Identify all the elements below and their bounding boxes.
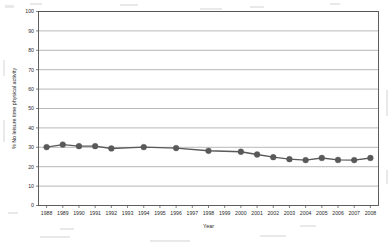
x-axis-tick-label: 2001 [251,210,263,216]
x-axis-tick-label: 1997 [187,210,199,216]
x-axis-tick-label: 1991 [89,210,101,216]
x-axis-tick-label: 1993 [122,210,134,216]
data-point-marker[interactable] [141,144,147,150]
x-axis-tick-label: 2006 [332,210,344,216]
x-axis-tick-label: 1994 [138,210,150,216]
y-axis-tick-label: 60 [28,86,34,92]
x-axis-tick-label: 2007 [348,210,360,216]
line-chart: 0102030405060708090100198819891990199119… [0,0,392,245]
x-axis-tick-label: 2002 [267,210,279,216]
data-point-marker[interactable] [270,154,276,160]
x-axis-tick-label: 1995 [154,210,166,216]
data-point-marker[interactable] [238,149,244,155]
y-axis-tick-label: 30 [28,144,34,150]
data-point-marker[interactable] [319,155,325,161]
x-axis-tick-label: 1992 [106,210,118,216]
data-point-marker[interactable] [173,145,179,151]
data-point-marker[interactable] [76,143,82,149]
y-axis-tick-label: 20 [28,164,34,170]
data-point-marker[interactable] [303,157,309,163]
data-point-marker[interactable] [351,157,357,163]
data-point-marker[interactable] [44,144,50,150]
x-axis-tick-label: 1988 [41,210,53,216]
chart-container: 0102030405060708090100198819891990199119… [0,0,392,245]
y-axis-tick-label: 100 [25,8,34,14]
y-axis-tick-label: 10 [28,183,34,189]
x-axis-title: Year [203,223,214,229]
y-axis-tick-label: 90 [28,28,34,34]
y-axis-tick-label: 70 [28,67,34,73]
x-axis-tick-label: 1996 [170,210,182,216]
x-axis-tick-label: 1999 [219,210,231,216]
x-axis-tick-label: 2004 [300,210,312,216]
x-axis-tick-label: 2005 [316,210,328,216]
y-axis-tick-label: 80 [28,47,34,53]
data-point-marker[interactable] [206,148,212,154]
y-axis-tick-label: 40 [28,125,34,131]
x-axis-tick-label: 1990 [73,210,85,216]
x-axis-tick-label: 1989 [57,210,69,216]
y-axis-tick-label: 0 [31,202,34,208]
data-point-marker[interactable] [287,156,293,162]
data-point-marker[interactable] [108,146,114,152]
y-axis-tick-label: 50 [28,105,34,111]
x-axis-tick-label: 2008 [365,210,377,216]
x-axis-tick-label: 2000 [235,210,247,216]
x-axis-tick-label: 2003 [284,210,296,216]
data-point-marker[interactable] [368,155,374,161]
y-axis-title: % No leisure time physical activity [11,68,17,149]
x-axis-tick-label: 1998 [203,210,215,216]
data-point-marker[interactable] [254,152,260,158]
data-point-marker[interactable] [92,143,98,149]
data-point-marker[interactable] [60,142,66,148]
data-point-marker[interactable] [335,157,341,163]
